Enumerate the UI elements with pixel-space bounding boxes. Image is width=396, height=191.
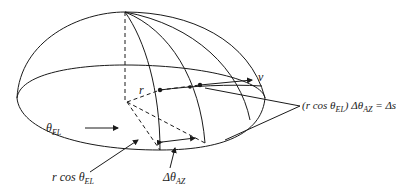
meridian-1 (125, 12, 160, 150)
label-r: r (139, 84, 144, 96)
radial-proj2 (127, 102, 205, 143)
label-v: v (258, 71, 263, 83)
label-theta-el: θEL (46, 122, 61, 137)
leader-1 (205, 88, 300, 106)
label-r-cos-theta-el: r cos θEL (52, 171, 94, 186)
leader-2 (225, 106, 300, 140)
leader-daz (170, 148, 175, 168)
radial-proj (127, 102, 160, 150)
leader-rcos (90, 140, 138, 172)
meridian-3 (125, 12, 250, 120)
daz-arc (162, 138, 195, 142)
v-vector (200, 80, 252, 85)
label-arc-length-equation: (r cos θEL) ΔθAZ = Δs (302, 100, 396, 114)
label-delta-theta-az: ΔθAZ (163, 171, 185, 186)
